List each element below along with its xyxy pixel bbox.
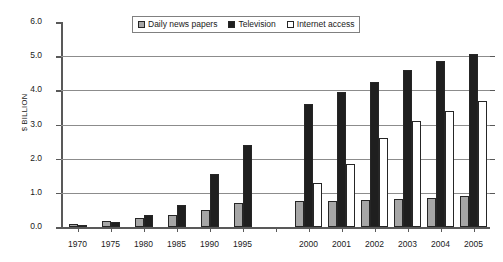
x-axis-tick-label: 2000 <box>299 239 318 249</box>
x-axis-tick-label: 1985 <box>167 239 186 249</box>
bar-2001-series1 <box>337 92 346 227</box>
x-axis-tick <box>441 227 442 232</box>
bar-2004-series0 <box>427 198 436 227</box>
bar-1985-series0 <box>168 215 177 227</box>
x-axis-tick-label: 2004 <box>431 239 450 249</box>
x-axis-tick-label: 1975 <box>101 239 120 249</box>
x-axis-tick <box>408 227 409 232</box>
category-gap <box>259 22 292 227</box>
x-axis-tick-label: 2003 <box>398 239 417 249</box>
plot-area: 0.01.02.03.04.05.06.01970197519801985199… <box>61 22 490 228</box>
x-axis-tick-label: 2001 <box>332 239 351 249</box>
x-axis-tick <box>111 227 112 232</box>
bar-2000-series1 <box>304 104 313 227</box>
bar-2002-series2 <box>379 138 388 227</box>
category-2000: 2000 <box>292 22 325 227</box>
x-axis-tick <box>375 227 376 232</box>
category-2001: 2001 <box>325 22 358 227</box>
category-2004: 2004 <box>424 22 457 227</box>
bar-2001-series0 <box>328 201 337 227</box>
y-axis-tick-label: 6.0 <box>8 16 42 26</box>
bar-2004-series2 <box>445 111 454 227</box>
category-1980: 1980 <box>127 22 160 227</box>
x-axis-tick <box>177 227 178 232</box>
bar-2001-series2 <box>346 164 355 227</box>
bar-2002-series1 <box>370 82 379 227</box>
x-axis-tick-label: 2005 <box>464 239 483 249</box>
bar-1970-series0 <box>69 224 78 227</box>
bar-1980-series1 <box>144 215 153 227</box>
bar-2002-series0 <box>361 200 370 227</box>
y-axis-right-tick <box>490 90 495 91</box>
y-axis-tick-label: 2.0 <box>8 153 42 163</box>
bar-1995-series0 <box>234 203 243 227</box>
bar-2005-series2 <box>478 101 487 227</box>
x-axis-tick <box>210 227 211 232</box>
x-axis-tick-label: 1970 <box>68 239 87 249</box>
bar-2000-series0 <box>295 201 304 227</box>
x-axis-tick <box>144 227 145 232</box>
bar-2003-series0 <box>394 199 403 227</box>
bar-1990-series0 <box>201 210 210 227</box>
bar-2004-series1 <box>436 61 445 227</box>
x-axis-tick <box>474 227 475 232</box>
bar-2005-series1 <box>469 54 478 227</box>
category-1995: 1995 <box>226 22 259 227</box>
category-1970: 1970 <box>61 22 94 227</box>
y-axis-tick <box>56 227 61 229</box>
category-1975: 1975 <box>94 22 127 227</box>
x-axis-tick-label: 2002 <box>365 239 384 249</box>
bar-chart: $ BILLION Daily news papers Television I… <box>0 0 503 262</box>
category-2003: 2003 <box>391 22 424 227</box>
y-axis-right-tick <box>490 125 495 126</box>
category-1990: 1990 <box>193 22 226 227</box>
bar-2000-series2 <box>313 183 322 227</box>
y-axis-tick-label: 5.0 <box>8 50 42 60</box>
category-2005: 2005 <box>457 22 490 227</box>
y-axis-tick-label: 0.0 <box>8 221 42 231</box>
x-axis-tick <box>276 227 277 232</box>
bar-1975-series0 <box>102 221 111 227</box>
bar-1970-series1 <box>78 225 87 227</box>
x-axis-tick <box>78 227 79 232</box>
y-axis-tick-label: 3.0 <box>8 119 42 129</box>
x-axis-tick-label: 1980 <box>134 239 153 249</box>
x-axis-tick-label: 1995 <box>233 239 252 249</box>
x-axis-tick <box>243 227 244 232</box>
bar-1980-series0 <box>135 218 144 227</box>
y-axis-right-tick <box>490 193 495 194</box>
x-axis-tick-label: 1990 <box>200 239 219 249</box>
y-axis-right-tick <box>490 159 495 160</box>
bar-2003-series2 <box>412 121 421 227</box>
bar-1985-series1 <box>177 205 186 227</box>
category-1985: 1985 <box>160 22 193 227</box>
x-axis-tick <box>342 227 343 232</box>
bar-2003-series1 <box>403 70 412 227</box>
y-axis-tick-label: 1.0 <box>8 187 42 197</box>
bar-1990-series1 <box>210 174 219 227</box>
x-axis-tick <box>309 227 310 232</box>
category-2002: 2002 <box>358 22 391 227</box>
bar-1975-series1 <box>111 222 120 227</box>
bar-1995-series1 <box>243 145 252 227</box>
bar-2005-series0 <box>460 196 469 227</box>
y-axis-tick-label: 4.0 <box>8 84 42 94</box>
y-axis-right-tick <box>490 56 495 57</box>
